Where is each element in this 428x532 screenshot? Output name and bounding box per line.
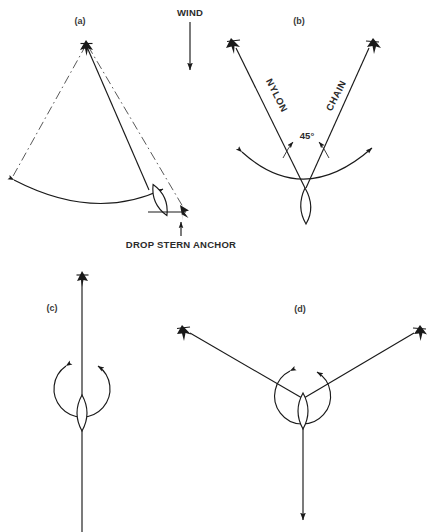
panel-d-label: (d) [294,304,306,314]
rode-line-d-upper-right [304,333,414,398]
chain-anchor-symbol [366,38,381,54]
panel-c-label: (c) [47,303,58,313]
panel-b-label: (b) [293,16,305,26]
boat-hull-b [301,188,311,224]
dashed-rode-right [88,46,186,212]
stern-anchor-symbol [180,205,189,221]
wind-indicator: WIND [177,7,203,70]
drop-stern-anchor-label: DROP STERN ANCHOR [126,239,236,250]
diagram-canvas: WIND (a) [0,0,428,532]
panel-d: (d) [177,304,427,520]
bow-anchor-symbol-c [77,271,89,287]
nylon-rode-label: NYLON [264,77,290,114]
anchor-symbol-d-right [413,325,427,341]
angle-arc-left [283,142,293,158]
chain-rode-label: CHAIN [323,78,348,112]
anchor-symbol [80,40,93,56]
panel-c: (c) [47,271,111,532]
panel-b: (b) 45° NYLON [226,16,381,224]
chain-rode-line [306,48,369,188]
bow-rode-line [87,47,149,190]
anchor-symbol-d-left [177,325,191,341]
panel-a: (a) [12,16,236,250]
dashed-rode-left [12,45,86,178]
angle-45-label: 45° [300,130,315,141]
swing-arc-b [242,148,372,179]
rode-line-d-upper-left [190,333,302,398]
nylon-rode-line [236,48,305,188]
wind-label: WIND [177,7,203,18]
panel-a-label: (a) [75,16,86,26]
cut-off-header-text [6,0,186,6]
anchoring-diagram-figure: WIND (a) [0,0,428,532]
boat-hull-c [77,395,87,431]
swing-arc [14,180,163,204]
